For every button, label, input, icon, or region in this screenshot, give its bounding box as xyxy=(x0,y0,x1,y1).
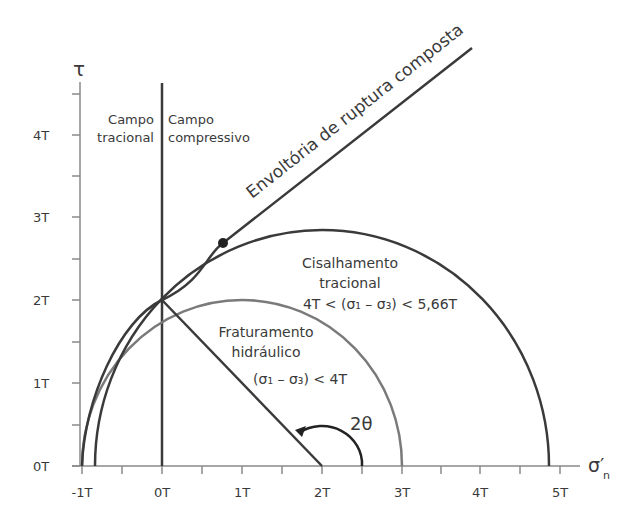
mohr-diagram: 0T 1T 2T 3T 4T -1T 0T 1T 2T 3T 4T 5T τ σ… xyxy=(0,0,632,531)
x-tick-2: 2T xyxy=(314,485,330,500)
x-axis-ticks xyxy=(82,466,560,474)
y-tick-2: 2T xyxy=(33,293,49,308)
tensile-field-label-2: tracional xyxy=(97,130,154,145)
envelope-label: Envoltória de ruptura composta xyxy=(242,19,467,202)
shear-label-2: tracional xyxy=(319,275,380,291)
x-axis-label: σ′ xyxy=(588,454,604,476)
compressive-field-label-1: Campo xyxy=(168,112,214,127)
y-axis-label: τ xyxy=(73,57,85,81)
hydraulic-label-1: Fraturamento xyxy=(218,324,313,340)
x-tick-1: 1T xyxy=(234,485,250,500)
y-tick-3: 3T xyxy=(33,210,49,225)
x-tick-0: 0T xyxy=(154,485,170,500)
angle-label: 2θ xyxy=(350,413,372,434)
y-axis-ticks xyxy=(72,94,80,466)
tensile-field-label-1: Campo xyxy=(108,112,154,127)
x-tick-4: 4T xyxy=(472,485,488,500)
compressive-field-label-2: compressivo xyxy=(168,130,250,145)
shear-label-3: 4T < (σ₁ – σ₃) < 5,66T xyxy=(303,296,458,312)
x-tick-3: 3T xyxy=(394,485,410,500)
y-tick-0: 0T xyxy=(33,459,49,474)
y-tick-4: 4T xyxy=(33,128,49,143)
y-tick-1: 1T xyxy=(33,376,49,391)
arrowhead-icon xyxy=(295,426,306,437)
x-tick-m1: -1T xyxy=(72,485,93,500)
shear-label-1: Cisalhamento xyxy=(302,255,398,271)
tangent-point-marker xyxy=(218,238,228,248)
hydraulic-label-3: (σ₁ – σ₃) < 4T xyxy=(253,371,347,387)
failure-envelope xyxy=(82,48,472,466)
hydraulic-label-2: hidráulico xyxy=(232,344,301,360)
x-axis-label-sub: n xyxy=(603,469,610,482)
x-tick-5: 5T xyxy=(552,485,568,500)
